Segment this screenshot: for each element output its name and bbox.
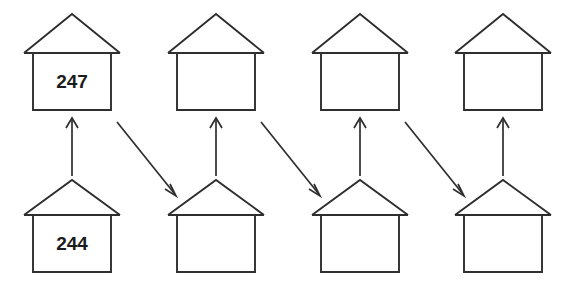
arrow-diagonal-2 bbox=[261, 122, 320, 196]
house-body bbox=[321, 53, 399, 110]
arrow-up-2 bbox=[210, 118, 222, 176]
arrow-head-icon bbox=[453, 184, 464, 196]
bottom-house-3 bbox=[312, 180, 408, 272]
arrow-head-icon bbox=[309, 184, 320, 196]
arrow-up-4 bbox=[497, 118, 509, 176]
top-house-3 bbox=[312, 14, 408, 110]
top-house-1-label: 247 bbox=[56, 71, 88, 92]
bottom-house-1-label: 244 bbox=[56, 233, 88, 254]
house-number-diagram: 247 244 bbox=[0, 0, 571, 288]
house-body bbox=[177, 53, 255, 110]
top-house-1: 247 bbox=[24, 14, 120, 110]
roof-icon bbox=[312, 14, 408, 53]
bottom-house-2 bbox=[168, 180, 264, 272]
arrow-diagonal-1 bbox=[117, 122, 176, 196]
arrow-shaft bbox=[261, 122, 318, 193]
roof-icon bbox=[455, 180, 551, 215]
roof-icon bbox=[455, 14, 551, 53]
bottom-house-4 bbox=[455, 180, 551, 272]
arrow-shaft bbox=[117, 122, 174, 193]
arrow-up-3 bbox=[354, 118, 366, 176]
house-diagram-canvas: 247 244 bbox=[0, 0, 571, 288]
house-body bbox=[464, 53, 542, 110]
house-body bbox=[321, 215, 399, 272]
house-body bbox=[177, 215, 255, 272]
arrow-diagonal-3 bbox=[405, 122, 464, 196]
roof-icon bbox=[312, 180, 408, 215]
bottom-house-1: 244 bbox=[24, 180, 120, 272]
roof-icon bbox=[24, 180, 120, 215]
arrow-shaft bbox=[405, 122, 462, 193]
arrow-up-1 bbox=[66, 118, 78, 176]
house-body bbox=[464, 215, 542, 272]
top-house-2 bbox=[168, 14, 264, 110]
arrow-head-icon bbox=[165, 184, 176, 196]
roof-icon bbox=[168, 14, 264, 53]
top-house-4 bbox=[455, 14, 551, 110]
roof-icon bbox=[168, 180, 264, 215]
roof-icon bbox=[24, 14, 120, 53]
